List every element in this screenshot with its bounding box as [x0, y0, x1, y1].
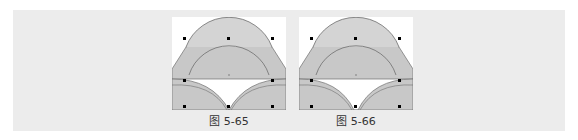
caption-5-65: 图 5-65	[172, 112, 286, 128]
figure-5-66	[299, 17, 413, 110]
caption-5-66: 图 5-66	[299, 112, 413, 128]
figure-5-65	[172, 17, 286, 110]
figure-panel	[13, 10, 565, 131]
